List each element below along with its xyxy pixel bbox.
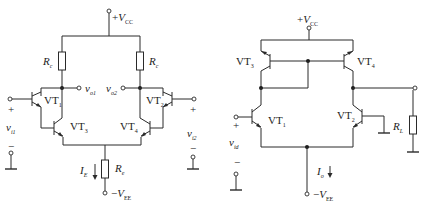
vcc-label-left: +VCC <box>112 11 133 25</box>
vi1-label: vi1 <box>6 121 16 135</box>
vi2-minus-terminal <box>191 155 195 159</box>
re-label: Re <box>114 162 125 176</box>
vi2-plus-terminal <box>192 97 196 101</box>
vcc-label-right: +VCC <box>297 13 318 27</box>
vt1-left-label: VT1 <box>44 94 62 108</box>
re-resistor <box>102 160 109 178</box>
ie-label: IE <box>79 164 88 178</box>
vt2-left-label: VT2 <box>146 94 164 108</box>
vt4-right-label: VT4 <box>357 55 375 69</box>
vt2-right-label: VT2 <box>337 109 355 123</box>
vi2-plus-sign: + <box>190 103 196 115</box>
vee-terminal-left <box>103 191 107 195</box>
vcc-terminal-right <box>307 26 311 30</box>
vid-label: vid <box>229 136 240 150</box>
rc-right-resistor <box>137 52 144 70</box>
vt3-pnp-transistor <box>261 51 308 71</box>
vo2-terminal <box>121 86 125 90</box>
rl-label: RL <box>392 120 404 134</box>
vt3-transistor <box>54 110 63 137</box>
vt2-right-transistor <box>353 105 390 133</box>
vid-minus-sign: − <box>234 156 240 168</box>
vi2-minus-sign: − <box>190 142 196 154</box>
vt4-label: VT4 <box>120 120 138 134</box>
vt3-label: VT3 <box>70 120 88 134</box>
rc-left-label: Rc <box>42 55 53 69</box>
vcc-terminal-left <box>107 9 111 13</box>
vid-minus-terminal <box>234 172 238 176</box>
vt1-right-label: VT1 <box>268 114 286 128</box>
vo1-label: vo1 <box>85 82 96 96</box>
vi1-plus-terminal <box>8 97 12 101</box>
vt4-pnp-transistor <box>308 51 353 71</box>
vi1-minus-terminal <box>9 151 13 155</box>
current-arrow-icon <box>328 173 333 178</box>
circuit-figure: +VCC Rc Rc vo1 vo2 <box>0 0 421 216</box>
vi1-plus-sign: + <box>8 103 14 115</box>
vee-label-right: −VEE <box>313 188 334 202</box>
vee-terminal-right <box>305 192 309 196</box>
vee-label-left: −VEE <box>111 187 132 201</box>
right-circuit: +VCC VT3 VT4 <box>229 13 419 202</box>
rc-left-resistor <box>59 52 66 70</box>
current-arrow-icon <box>93 175 98 180</box>
rc-right-label: Rc <box>148 55 159 69</box>
rl-resistor <box>410 116 417 134</box>
left-circuit: +VCC Rc Rc vo1 vo2 <box>5 9 199 201</box>
vt1-left-transistor <box>12 92 41 107</box>
vo1-terminal <box>77 86 81 90</box>
vt2-left-transistor <box>163 92 192 107</box>
vi2-label: vi2 <box>187 127 197 141</box>
vt3-right-label: VT3 <box>236 55 254 69</box>
output-terminal <box>413 86 417 90</box>
vi1-minus-sign: − <box>8 140 14 152</box>
vt1-right-transistor <box>238 105 261 128</box>
vid-plus-sign: + <box>233 119 239 131</box>
vt4-transistor <box>140 110 150 137</box>
vo2-label: vo2 <box>106 82 117 96</box>
io-label: Io <box>316 165 324 179</box>
